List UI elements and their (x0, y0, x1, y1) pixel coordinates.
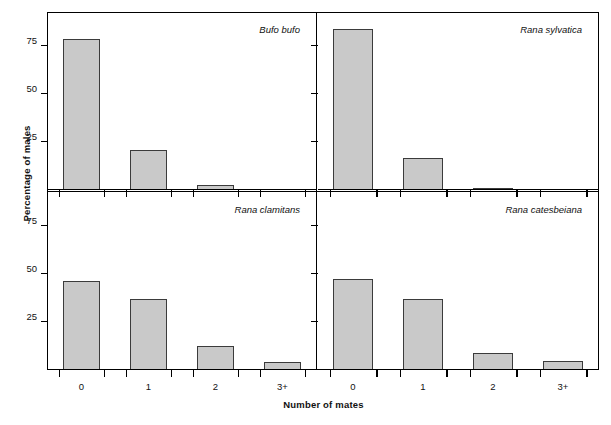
y-tick-label: 50 (26, 83, 37, 94)
bar-group: 0123+255075 (48, 193, 316, 370)
y-tick (41, 273, 48, 274)
y-tick (311, 141, 318, 142)
y-tick-label: 75 (26, 214, 37, 225)
y-tick (41, 321, 48, 322)
x-tick (59, 370, 60, 377)
x-tick-label: 2 (490, 381, 495, 392)
x-tick (260, 370, 261, 377)
x-tick-label: 3+ (277, 381, 288, 392)
x-tick (376, 370, 377, 377)
y-tick-label: 25 (26, 311, 37, 322)
x-tick (104, 370, 105, 377)
figure-root: Percentage of males Number of mates Bufo… (0, 0, 611, 425)
y-tick (41, 45, 48, 46)
x-axis-line (318, 369, 598, 370)
x-tick (516, 370, 517, 377)
bar (333, 279, 372, 370)
bar (197, 346, 235, 370)
y-tick-label: 50 (26, 263, 37, 274)
bar-group (318, 13, 598, 190)
x-tick (586, 370, 587, 377)
x-axis-title: Number of mates (47, 399, 600, 410)
x-tick-label: 0 (79, 381, 84, 392)
x-tick-label: 1 (420, 381, 425, 392)
x-tick (400, 370, 401, 377)
y-tick (311, 45, 318, 46)
x-axis-line (48, 189, 316, 190)
x-tick (171, 370, 172, 377)
x-tick (540, 370, 541, 377)
y-tick (41, 93, 48, 94)
x-tick-label: 3+ (558, 381, 569, 392)
bar (130, 299, 168, 370)
bar (63, 281, 101, 370)
y-tick (311, 225, 318, 226)
x-tick-label: 0 (350, 381, 355, 392)
y-tick (41, 225, 48, 226)
y-tick-label: 75 (26, 34, 37, 45)
y-tick (311, 93, 318, 94)
panel-rana-catesbeiana: Rana catesbeiana 0123+ (318, 193, 598, 370)
bar (473, 353, 512, 370)
bar (130, 150, 168, 190)
y-tick (41, 141, 48, 142)
y-tick (311, 321, 318, 322)
x-tick (238, 370, 239, 377)
x-tick-label: 1 (146, 381, 151, 392)
bar (333, 29, 372, 190)
panel-rana-clamitans: Rana clamitans 0123+255075 (48, 193, 316, 370)
x-tick-label: 2 (213, 381, 218, 392)
x-tick (305, 370, 306, 377)
y-tick-label: 25 (26, 131, 37, 142)
bar (403, 299, 442, 370)
bar (63, 39, 101, 190)
x-tick (126, 370, 127, 377)
x-axis-line (318, 189, 598, 190)
bar (403, 158, 442, 190)
panel-rana-sylvatica: Rana sylvatica (318, 13, 598, 190)
x-tick (330, 370, 331, 377)
x-tick (470, 370, 471, 377)
x-axis-line (48, 369, 316, 370)
x-tick (193, 370, 194, 377)
panel-bufo-bufo: Bufo bufo 255075 (48, 13, 316, 190)
bar-group: 0123+ (318, 193, 598, 370)
x-tick (446, 370, 447, 377)
y-tick (311, 273, 318, 274)
bar-group: 255075 (48, 13, 316, 190)
